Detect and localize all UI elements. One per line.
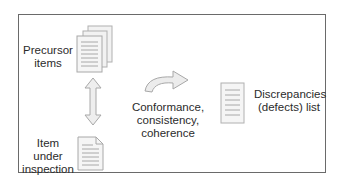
curved-arrow-icon	[143, 68, 191, 94]
item-label-line2: under	[22, 150, 74, 163]
output-label-line2: (defects) list	[254, 101, 324, 114]
double-headed-arrow-icon	[83, 77, 103, 127]
conformance-label: Conformance, consistency, coherence	[130, 101, 206, 140]
stacked-documents-icon	[76, 25, 116, 75]
item-under-inspection-label: Item under inspection	[22, 137, 74, 176]
document-icon	[77, 136, 105, 172]
item-label-line1: Item	[22, 137, 74, 150]
output-label-line1: Discrepancies	[254, 88, 324, 101]
precursor-label-line1: Precursor	[22, 44, 74, 57]
process-label-line2: consistency,	[130, 114, 206, 127]
process-label-line3: coherence	[130, 127, 206, 140]
list-document-icon	[220, 82, 246, 126]
item-label-line3: inspection	[22, 163, 74, 176]
discrepancies-label: Discrepancies (defects) list	[254, 88, 324, 114]
precursor-items-label: Precursor items	[22, 44, 74, 70]
precursor-label-line2: items	[22, 57, 74, 70]
process-label-line1: Conformance,	[130, 101, 206, 114]
